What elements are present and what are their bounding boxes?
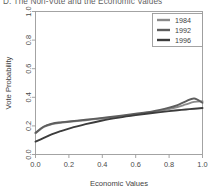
y-tick-label: 0.0 <box>24 149 33 159</box>
legend-label-1996: 1996 <box>175 36 191 45</box>
y-tick-label: 0.2 <box>24 121 33 131</box>
y-tick-label: 0.8 <box>24 35 33 45</box>
x-tick-label: 0.0 <box>30 160 40 169</box>
series-line-1992 <box>36 98 203 132</box>
y-tick-label: 0.6 <box>24 64 33 74</box>
y-tick-label: 1.0 <box>24 6 33 16</box>
plot-canvas: 0.00.20.40.60.81.0 0.00.20.40.60.81.0 Ec… <box>0 0 210 195</box>
x-tick-label: 0.2 <box>64 160 74 169</box>
y-tick-label: 0.4 <box>24 92 33 102</box>
y-axis-title: Vote Probability <box>4 56 13 109</box>
chart-figure: D. The Non-Vote and the Economic Values … <box>0 0 210 195</box>
chart-legend: 198419921996 <box>153 14 203 47</box>
x-axis-ticks: 0.00.20.40.60.81.0 <box>30 155 207 169</box>
x-tick-label: 0.8 <box>164 160 174 169</box>
y-axis-ticks: 0.00.20.40.60.81.0 <box>24 6 36 159</box>
x-tick-label: 0.4 <box>97 160 107 169</box>
data-series-group <box>36 98 203 141</box>
x-tick-label: 0.6 <box>131 160 141 169</box>
series-line-1996 <box>36 108 203 142</box>
legend-label-1984: 1984 <box>175 16 191 25</box>
x-axis-title: Economic Values <box>90 179 148 188</box>
x-tick-label: 1.0 <box>197 160 207 169</box>
legend-label-1992: 1992 <box>175 26 191 35</box>
